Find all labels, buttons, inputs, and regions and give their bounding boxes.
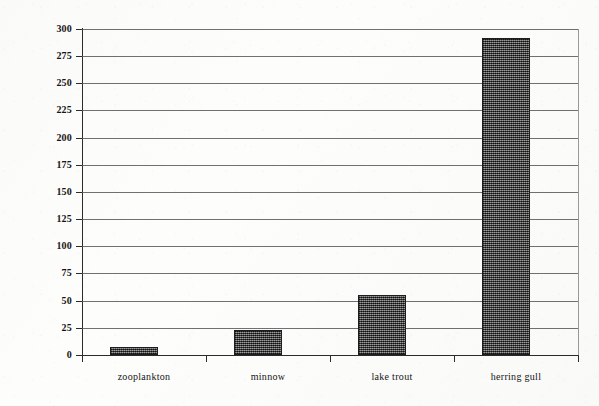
pcb-bioaccumulation-bar-chart: PCB, ppm 300 275 250 225 200 175 150 125…: [0, 0, 599, 406]
bar-zooplankton: [110, 347, 158, 355]
bar-minnow: [234, 330, 282, 355]
y-tick-label-300: 300: [40, 23, 72, 34]
y-tick-label-0: 0: [40, 349, 72, 360]
x-tick-mark: [454, 356, 455, 362]
y-tick-label-100: 100: [40, 240, 72, 251]
y-tick-label-125: 125: [40, 213, 72, 224]
bar-herring-gull: [482, 38, 530, 355]
y-tick-label-25: 25: [40, 322, 72, 333]
plot-area: [82, 29, 578, 355]
y-tick-label-250: 250: [40, 77, 72, 88]
x-tick-mark: [206, 356, 207, 362]
y-tick-label-50: 50: [40, 295, 72, 306]
x-tick-mark: [82, 356, 83, 362]
x-tick-label-lake-trout: lake trout: [330, 371, 454, 382]
x-tick-label-herring-gull: herring gull: [454, 371, 578, 382]
y-tick-label-225: 225: [40, 104, 72, 115]
x-tick-mark: [330, 356, 331, 362]
x-tick-label-minnow: minnow: [206, 371, 330, 382]
plot-right-border: [578, 29, 579, 356]
gridline-300: [82, 29, 578, 30]
y-tick-label-275: 275: [40, 50, 72, 61]
y-tick-label-150: 150: [40, 186, 72, 197]
x-tick-label-zooplankton: zooplankton: [82, 371, 206, 382]
y-tick-label-200: 200: [40, 132, 72, 143]
y-tick-label-75: 75: [40, 267, 72, 278]
y-tick-label-175: 175: [40, 159, 72, 170]
x-tick-mark: [578, 356, 579, 362]
bar-lake-trout: [358, 295, 406, 355]
